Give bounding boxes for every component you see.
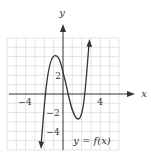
y-tick-neg4: −4: [46, 127, 60, 137]
x-tick-4: 4: [97, 97, 103, 107]
x-axis-arrow-icon: [127, 91, 135, 97]
axes: [9, 30, 130, 150]
curve-end-arrow-down-icon: [39, 141, 45, 149]
function-annotation: y = f(x): [72, 135, 111, 146]
function-graph: x y −4 4 2 −2 −4 y = f(x): [0, 0, 151, 159]
y-tick-neg2: −2: [46, 108, 59, 118]
x-axis-label: x: [141, 88, 147, 99]
y-tick-2: 2: [55, 71, 61, 81]
x-tick-neg4: −4: [18, 97, 32, 107]
y-axis-label: y: [58, 7, 65, 18]
y-axis-arrow-icon: [60, 24, 66, 32]
